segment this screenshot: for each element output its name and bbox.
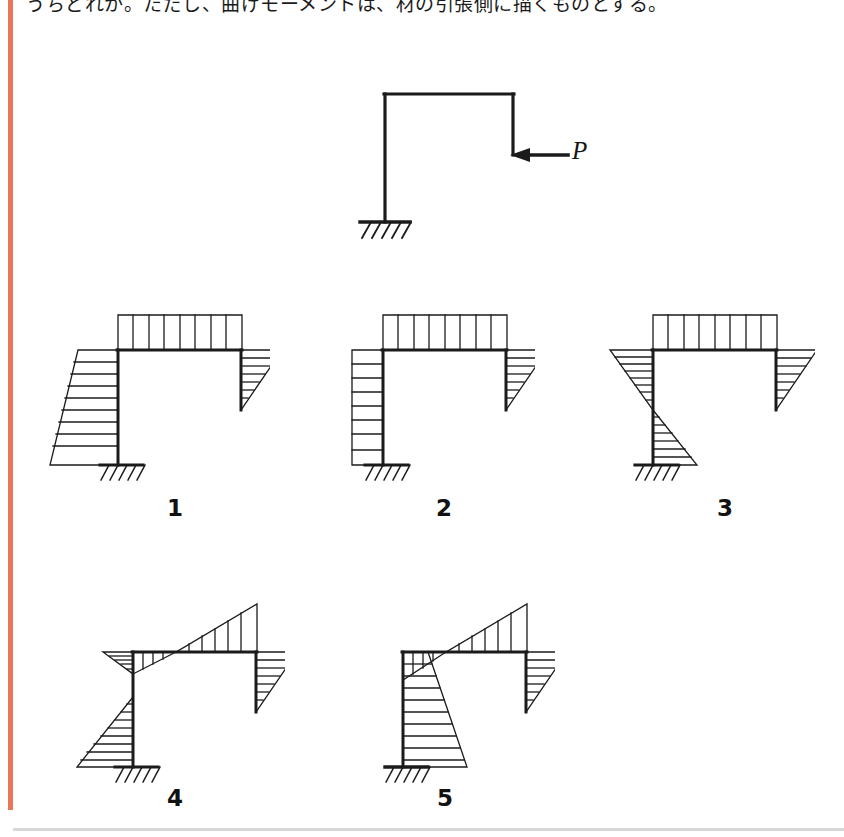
main-frame-figure <box>340 70 600 250</box>
opt3-support-hatch <box>636 465 680 480</box>
worksheet-page: うちどれか。ただし、曲げモーメントは、材の引張側に描くものとする。 <box>0 0 844 837</box>
opt4-left-column-moment-lower <box>77 697 133 767</box>
opt2-support-hatch <box>366 465 410 480</box>
option-5-label: 5 <box>425 785 465 811</box>
opt5-beam-moment-upper <box>446 604 527 652</box>
opt2-right-column-moment-block <box>506 350 535 410</box>
opt4-left-column-moment-upper <box>103 652 133 674</box>
question-prompt-text: うちどれか。ただし、曲げモーメントは、材の引張側に描くものとする。 <box>26 0 826 17</box>
load-label-P: P <box>572 137 587 165</box>
opt1-support-hatch <box>101 465 145 480</box>
option-3-diagram <box>575 305 815 505</box>
option-2-diagram <box>305 305 535 505</box>
option-1-diagram <box>40 305 270 505</box>
option-1-label: 1 <box>155 495 195 521</box>
opt5-support-hatch <box>386 767 430 782</box>
opt1-left-column-moment-block <box>50 350 118 465</box>
option-4-label: 4 <box>155 785 195 811</box>
opt1-beam-moment-block <box>118 315 242 350</box>
opt1-right-column-moment-block <box>241 350 270 410</box>
accent-side-rule <box>8 0 13 810</box>
opt3-beam-moment-block <box>653 315 777 350</box>
opt4-beam-moment-upper <box>176 604 257 652</box>
support-hatch-lines <box>362 222 411 238</box>
opt3-left-column-moment-upper <box>610 350 653 410</box>
opt3-right-column-moment-block <box>776 350 815 410</box>
opt4-support-hatch <box>116 767 160 782</box>
opt5-right-column-moment-block <box>526 652 555 712</box>
opt2-left-column-moment-block <box>352 350 383 465</box>
opt4-right-column-moment-block <box>256 652 285 712</box>
opt4-beam-moment-lower <box>133 652 176 674</box>
option-5-diagram <box>325 590 555 790</box>
opt3-left-column-moment-lower <box>653 410 697 465</box>
option-4-diagram <box>55 590 285 790</box>
bottom-divider-rule <box>13 828 844 831</box>
opt2-beam-moment-block <box>383 315 507 350</box>
option-2-label: 2 <box>424 495 464 521</box>
option-3-label: 3 <box>705 495 745 521</box>
